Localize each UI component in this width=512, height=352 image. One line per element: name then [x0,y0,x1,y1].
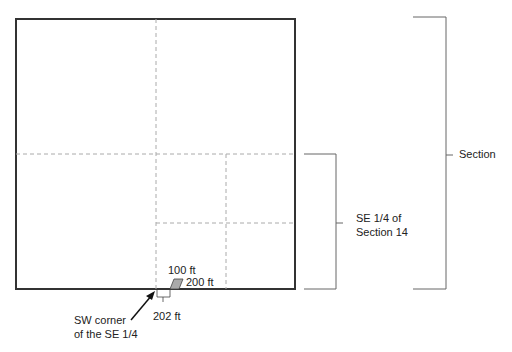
dim-200-label: 200 ft [186,276,214,289]
section-label: Section [459,148,496,161]
sw-corner-label-line1: SW corner [74,314,126,327]
se-quarter-label-line2: Section 14 [356,226,408,239]
se-quarter-label-line1: SE 1/4 of [356,212,401,225]
dim-202-bracket [157,290,170,297]
sw-corner-label-line2: of the SE 1/4 [74,328,138,341]
sw-corner-arrow-line [131,295,152,320]
sw-corner-arrow-head [146,291,155,300]
se-quarter-bracket [304,154,336,289]
dim-202-label: 202 ft [153,310,181,323]
section-diagram [0,0,512,352]
parcel-shape [170,279,183,289]
section-bracket [413,17,446,289]
